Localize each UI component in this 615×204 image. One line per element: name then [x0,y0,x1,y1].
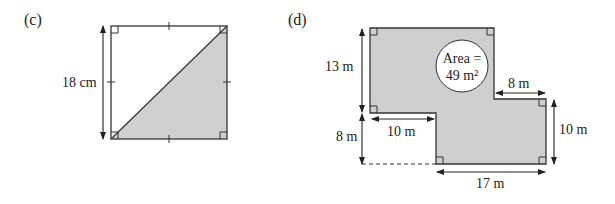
area-label-line1: Area = [443,51,482,66]
label-10m-right: 10 m [559,122,588,137]
right-angle-tl [111,26,118,33]
figure-c: (c) 18 cm [24,11,231,143]
label-8m-left: 8 m [336,129,358,144]
side-length-label: 18 cm [62,75,97,90]
figure-d: (d) Area = 49 m² 13 m 8 m 10 m 8 m 10 m … [288,11,588,191]
label-8m-right: 8 m [508,76,530,91]
label-13m: 13 m [325,59,354,74]
part-label-c: (c) [24,11,42,29]
part-label-d: (d) [288,11,307,29]
geometry-figures: (c) 18 cm (d) Area = 49 m² 13 [0,0,615,204]
area-circle [436,40,488,92]
area-label-line2: 49 m² [446,68,479,83]
label-10m-inner: 10 m [387,124,416,139]
label-17m: 17 m [476,176,505,191]
